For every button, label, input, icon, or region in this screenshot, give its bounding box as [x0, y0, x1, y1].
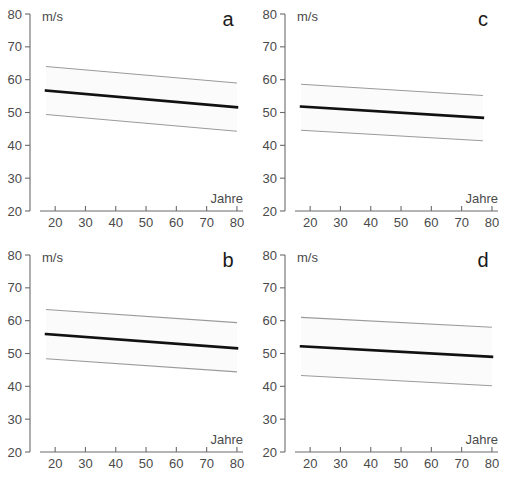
x-tick-label-40: 40: [364, 456, 378, 471]
x-tick-label-70: 70: [199, 456, 213, 471]
y-tick-label-30: 30: [263, 412, 277, 427]
unit-label: m/s: [297, 9, 318, 24]
x-tick-label-50: 50: [394, 215, 408, 230]
x-tick-label-30: 30: [78, 215, 92, 230]
x-axis-label: Jahre: [465, 191, 498, 206]
y-tick-label-70: 70: [8, 39, 22, 54]
panel-d-plot: 2030405060708020304050607080m/sJahred: [255, 241, 509, 482]
y-tick-label-70: 70: [263, 39, 277, 54]
x-tick-label-70: 70: [454, 456, 468, 471]
y-tick-label-20: 20: [8, 204, 22, 219]
y-tick-label-40: 40: [263, 138, 277, 153]
panel-a: 2030405060708020304050607080m/sJahrea: [0, 0, 254, 241]
panel-a-plot: 2030405060708020304050607080m/sJahrea: [0, 0, 254, 241]
panel-letter-a: a: [222, 8, 234, 30]
x-axis-label: Jahre: [210, 432, 243, 447]
y-tick-label-70: 70: [8, 280, 22, 295]
y-tick-label-30: 30: [8, 171, 22, 186]
x-tick-label-30: 30: [78, 456, 92, 471]
y-tick-label-50: 50: [263, 346, 277, 361]
y-tick-label-20: 20: [263, 204, 277, 219]
x-tick-label-20: 20: [303, 456, 317, 471]
y-tick-label-80: 80: [263, 248, 277, 263]
x-tick-label-70: 70: [199, 215, 213, 230]
unit-label: m/s: [297, 250, 318, 265]
y-tick-label-50: 50: [8, 105, 22, 120]
x-tick-label-30: 30: [333, 456, 347, 471]
x-axis-label: Jahre: [465, 432, 498, 447]
x-tick-label-80: 80: [485, 456, 499, 471]
panel-b-plot: 2030405060708020304050607080m/sJahreb: [0, 241, 254, 482]
y-tick-label-40: 40: [8, 138, 22, 153]
x-tick-label-50: 50: [139, 456, 153, 471]
y-tick-label-80: 80: [8, 7, 22, 22]
y-tick-label-20: 20: [263, 445, 277, 460]
x-tick-label-60: 60: [169, 456, 183, 471]
x-tick-label-80: 80: [485, 215, 499, 230]
x-tick-label-40: 40: [364, 215, 378, 230]
x-tick-label-70: 70: [454, 215, 468, 230]
y-tick-label-60: 60: [8, 313, 22, 328]
x-tick-label-20: 20: [303, 215, 317, 230]
x-tick-label-50: 50: [394, 456, 408, 471]
y-tick-label-60: 60: [263, 72, 277, 87]
y-tick-label-80: 80: [8, 248, 22, 263]
panel-letter-b: b: [222, 249, 233, 271]
x-tick-label-60: 60: [169, 215, 183, 230]
y-tick-label-30: 30: [263, 171, 277, 186]
x-tick-label-20: 20: [48, 456, 62, 471]
y-tick-label-50: 50: [263, 105, 277, 120]
x-axis-label: Jahre: [210, 191, 243, 206]
figure-panel-grid: 2030405060708020304050607080m/sJahrea 20…: [0, 0, 509, 482]
x-tick-label-50: 50: [139, 215, 153, 230]
y-tick-label-20: 20: [8, 445, 22, 460]
panel-d: 2030405060708020304050607080m/sJahred: [255, 241, 509, 482]
x-tick-label-60: 60: [424, 456, 438, 471]
y-tick-label-40: 40: [8, 379, 22, 394]
y-tick-label-70: 70: [263, 280, 277, 295]
x-tick-label-80: 80: [230, 215, 244, 230]
panel-c: 2030405060708020304050607080m/sJahrec: [255, 0, 509, 241]
y-tick-label-60: 60: [263, 313, 277, 328]
y-tick-label-40: 40: [263, 379, 277, 394]
y-tick-label-50: 50: [8, 346, 22, 361]
panel-letter-c: c: [478, 8, 488, 30]
panel-b: 2030405060708020304050607080m/sJahreb: [0, 241, 254, 482]
x-tick-label-60: 60: [424, 215, 438, 230]
y-tick-label-30: 30: [8, 412, 22, 427]
y-tick-label-80: 80: [263, 7, 277, 22]
x-tick-label-40: 40: [109, 456, 123, 471]
unit-label: m/s: [42, 250, 63, 265]
x-tick-label-30: 30: [333, 215, 347, 230]
x-tick-label-80: 80: [230, 456, 244, 471]
y-tick-label-60: 60: [8, 72, 22, 87]
panel-c-plot: 2030405060708020304050607080m/sJahrec: [255, 0, 509, 241]
x-tick-label-40: 40: [109, 215, 123, 230]
x-tick-label-20: 20: [48, 215, 62, 230]
panel-letter-d: d: [477, 249, 488, 271]
unit-label: m/s: [42, 9, 63, 24]
